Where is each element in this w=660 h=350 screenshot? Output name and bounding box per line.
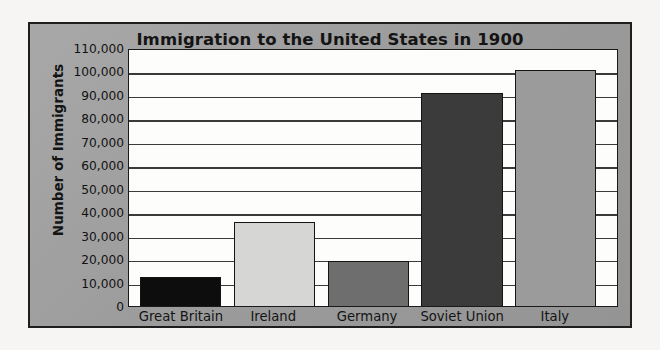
- y-tick-label: 20,000: [48, 253, 124, 267]
- y-tick-label: 110,000: [48, 42, 124, 56]
- y-tick-label: 90,000: [48, 89, 124, 103]
- y-tick-label: 70,000: [48, 136, 124, 150]
- x-axis-tick-labels: Great BritainIrelandGermanySoviet UnionI…: [128, 309, 618, 331]
- y-tick-label: 60,000: [48, 159, 124, 173]
- bar-soviet-union[interactable]: [421, 93, 502, 306]
- x-tick-label: Great Britain: [139, 309, 220, 324]
- y-tick-label: 0: [48, 300, 124, 314]
- plot-area: [128, 49, 618, 307]
- bars-group: [129, 50, 617, 306]
- x-tick-label: Italy: [514, 309, 595, 324]
- y-tick-label: 40,000: [48, 206, 124, 220]
- y-axis-tick-labels: 110,000100,00090,00080,00070,00060,00050…: [48, 49, 124, 307]
- y-tick-label: 50,000: [48, 183, 124, 197]
- y-tick-label: 80,000: [48, 112, 124, 126]
- y-tick-label: 30,000: [48, 230, 124, 244]
- x-tick-label: Soviet Union: [420, 309, 501, 324]
- bar-italy[interactable]: [515, 70, 596, 306]
- y-tick-label: 10,000: [48, 277, 124, 291]
- bar-ireland[interactable]: [234, 222, 315, 306]
- bar-germany[interactable]: [328, 261, 409, 306]
- x-tick-label: Ireland: [233, 309, 314, 324]
- bar-great-britain[interactable]: [140, 277, 221, 306]
- y-tick-label: 100,000: [48, 65, 124, 79]
- x-tick-label: Germany: [327, 309, 408, 324]
- chart-panel: Immigration to the United States in 1900…: [28, 22, 632, 328]
